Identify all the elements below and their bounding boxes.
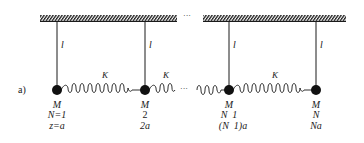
spring-label-n: K <box>272 70 278 80</box>
spring-1-2 <box>61 84 141 93</box>
ceiling-left <box>40 15 177 22</box>
index-label-1: N=1 <box>48 110 66 120</box>
length-label-n-minus-1: l <box>233 40 236 50</box>
position-label-2: 2a <box>140 121 150 131</box>
mass-n-minus-1 <box>224 85 234 95</box>
mass-2 <box>140 85 150 95</box>
spring-label-1: K <box>102 70 108 80</box>
spring-n-minus-1-n <box>233 84 312 93</box>
position-label-1: z=a <box>49 121 65 131</box>
spring-2-stub <box>149 84 175 93</box>
spring-label-2: K <box>163 70 169 80</box>
position-label-n: Na <box>310 121 322 131</box>
length-label-n: l <box>320 40 323 50</box>
mass-n <box>311 85 321 95</box>
index-label-2: 2 <box>143 110 148 120</box>
length-label-2: l <box>149 40 152 50</box>
spring-n-minus-1-stub <box>197 86 225 95</box>
ellipsis-top: ··· <box>183 11 191 21</box>
mass-1 <box>52 85 62 95</box>
index-label-n: N <box>313 110 320 120</box>
length-label-1: l <box>61 40 64 50</box>
panel-label: a) <box>18 85 26 95</box>
ellipsis-middle: ··· <box>180 84 188 94</box>
ceiling-right <box>203 15 346 22</box>
position-label-n-minus-1: (N 1)a <box>219 121 247 131</box>
index-label-n-minus-1: N 1 <box>221 110 238 120</box>
